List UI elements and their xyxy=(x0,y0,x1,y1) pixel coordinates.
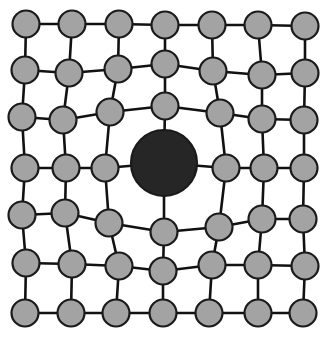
lattice-node xyxy=(106,253,133,280)
lattice-node xyxy=(291,107,318,134)
lattice-node xyxy=(150,300,177,327)
lattice-node xyxy=(206,214,233,241)
lattice-node xyxy=(199,252,226,279)
lattice-node xyxy=(106,11,133,38)
lattice-node xyxy=(103,300,130,327)
lattice-node xyxy=(291,155,318,182)
lattice-node xyxy=(290,206,317,233)
lattice-node xyxy=(200,58,227,85)
lattice-node xyxy=(53,155,80,182)
lattice-node xyxy=(59,251,86,278)
lattice-node xyxy=(97,99,124,126)
lattice-node xyxy=(9,104,36,131)
lattice-node xyxy=(196,300,223,327)
lattice-node xyxy=(13,11,40,38)
lattice-node xyxy=(292,60,319,87)
lattice-node xyxy=(245,300,272,327)
lattice-node xyxy=(56,60,83,87)
lattice-node xyxy=(251,155,278,182)
lattice-node xyxy=(292,253,319,280)
lattice-diagram xyxy=(0,0,327,337)
lattice-node xyxy=(152,51,179,78)
lattice-node xyxy=(213,155,240,182)
lattice-node xyxy=(105,56,132,83)
lattice-node xyxy=(290,300,317,327)
center-mass-node xyxy=(131,130,197,196)
lattice-node xyxy=(52,200,79,227)
lattice-node xyxy=(245,12,272,39)
lattice-node xyxy=(96,210,123,237)
lattice-node xyxy=(245,252,272,279)
lattice-node xyxy=(9,202,36,229)
lattice-node xyxy=(249,106,276,133)
lattice-node xyxy=(58,300,85,327)
lattice-node xyxy=(12,155,39,182)
lattice-node xyxy=(59,11,86,38)
lattice-node xyxy=(50,107,77,134)
lattice-node xyxy=(292,13,319,40)
lattice-node xyxy=(249,62,276,89)
lattice-node xyxy=(12,57,39,84)
lattice-node xyxy=(12,300,39,327)
lattice-node xyxy=(207,100,234,127)
lattice-node xyxy=(151,219,178,246)
lattice-node xyxy=(249,206,276,233)
lattice-node xyxy=(13,250,40,277)
lattice-node xyxy=(152,12,179,39)
lattice-node xyxy=(150,258,177,285)
lattice-node xyxy=(152,93,179,120)
lattice-node xyxy=(92,155,119,182)
lattice-node xyxy=(199,12,226,39)
